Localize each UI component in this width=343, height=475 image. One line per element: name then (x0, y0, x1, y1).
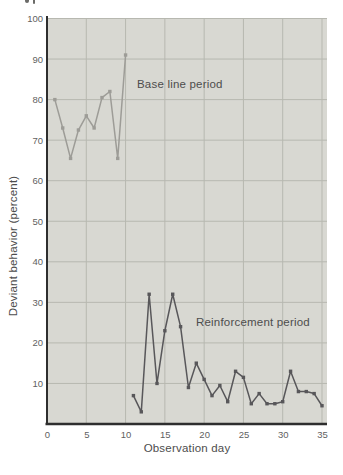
y-tick-label: 50 (32, 216, 43, 227)
data-point-marker (320, 404, 323, 407)
data-point-marker (297, 390, 300, 393)
data-point-marker (187, 386, 190, 389)
data-point-marker (226, 400, 229, 403)
x-tick-label: 5 (84, 429, 89, 440)
data-point-marker (116, 157, 119, 160)
data-point-marker (100, 96, 103, 99)
data-point-marker (257, 392, 260, 395)
data-point-marker (234, 370, 237, 373)
data-point-marker (147, 293, 150, 296)
chart-canvas: 10203040506070809010005101520253035 (0, 0, 343, 475)
x-tick-label: 20 (199, 429, 210, 440)
y-axis-title: Deviant behavior (percent) (7, 146, 21, 346)
y-tick-label: 100 (27, 13, 43, 24)
x-tick-label: 35 (317, 429, 328, 440)
y-tick-label: 40 (32, 256, 43, 267)
x-tick-labels: 05101520253035 (45, 429, 328, 440)
data-point-marker (132, 394, 135, 397)
data-point-marker (155, 382, 158, 385)
data-point-marker (108, 90, 111, 93)
y-tick-label: 10 (32, 378, 43, 389)
x-tick-label: 30 (278, 429, 289, 440)
y-tick-label: 20 (32, 337, 43, 348)
data-point-marker (140, 410, 143, 413)
baseline-period-annotation: Base line period (137, 78, 223, 90)
data-point-marker (171, 293, 174, 296)
x-tick-label: 10 (121, 429, 132, 440)
y-tick-label: 30 (32, 297, 43, 308)
y-tick-labels: 102030405060708090100 (27, 13, 43, 389)
x-tick-label: 15 (160, 429, 171, 440)
data-point-marker (210, 394, 213, 397)
data-point-marker (195, 361, 198, 364)
y-tick-label: 60 (32, 175, 43, 186)
data-point-marker (61, 126, 64, 129)
data-point-marker (124, 53, 127, 56)
data-point-marker (218, 384, 221, 387)
data-point-marker (305, 390, 308, 393)
data-point-marker (92, 126, 95, 129)
reinforcement-period-annotation: Reinforcement period (196, 316, 310, 328)
data-point-marker (242, 376, 245, 379)
data-point-marker (289, 370, 292, 373)
y-tick-label: 80 (32, 94, 43, 105)
data-point-marker (202, 378, 205, 381)
data-point-marker (265, 402, 268, 405)
data-point-marker (312, 392, 315, 395)
data-point-marker (53, 98, 56, 101)
data-point-marker (250, 402, 253, 405)
data-point-marker (85, 114, 88, 117)
y-tick-label: 70 (32, 135, 43, 146)
data-point-marker (77, 128, 80, 131)
data-point-marker (163, 329, 166, 332)
data-point-marker (281, 400, 284, 403)
y-tick-label: 90 (32, 54, 43, 65)
data-point-marker (179, 325, 182, 328)
x-tick-label: 0 (45, 429, 50, 440)
x-tick-label: 25 (239, 429, 250, 440)
chart-figure: 10203040506070809010005101520253035 Base… (0, 0, 343, 475)
data-point-marker (69, 157, 72, 160)
x-axis-title: Observation day (47, 442, 327, 454)
data-point-marker (273, 402, 276, 405)
